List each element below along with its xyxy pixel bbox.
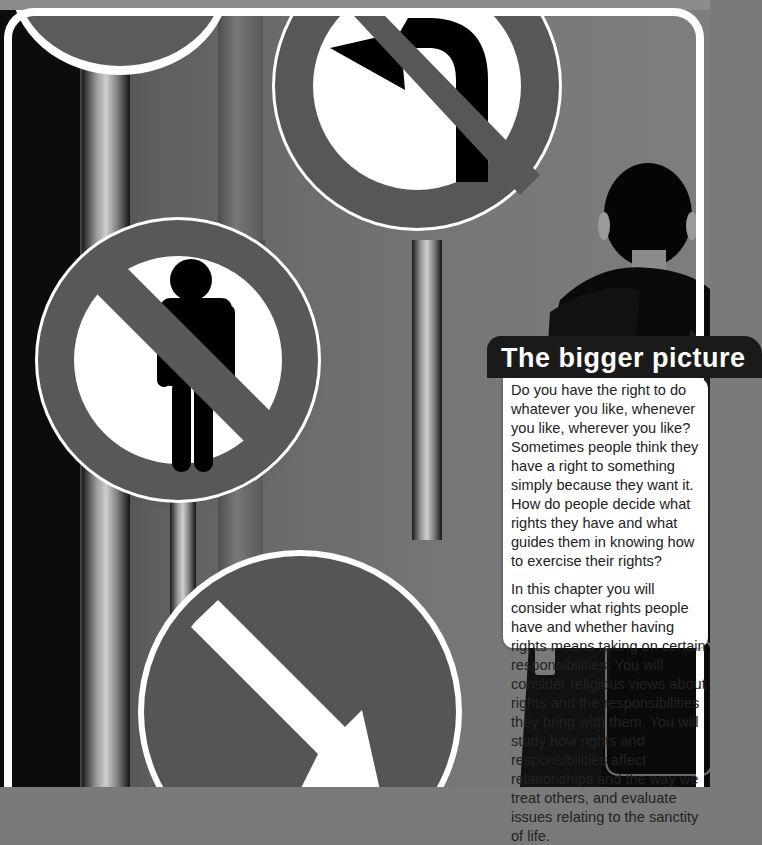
section-title: The bigger picture — [487, 336, 762, 378]
header-bar — [0, 0, 710, 10]
section-content: Do you have the right to do whatever you… — [511, 381, 707, 845]
paragraph-intro: Do you have the right to do whatever you… — [511, 381, 707, 571]
paragraph-chapter-overview: In this chapter you will consider what r… — [511, 580, 707, 845]
no-pedestrians-sign — [33, 217, 327, 513]
no-left-turn-sign — [272, 0, 562, 231]
pole-middle — [412, 240, 442, 540]
